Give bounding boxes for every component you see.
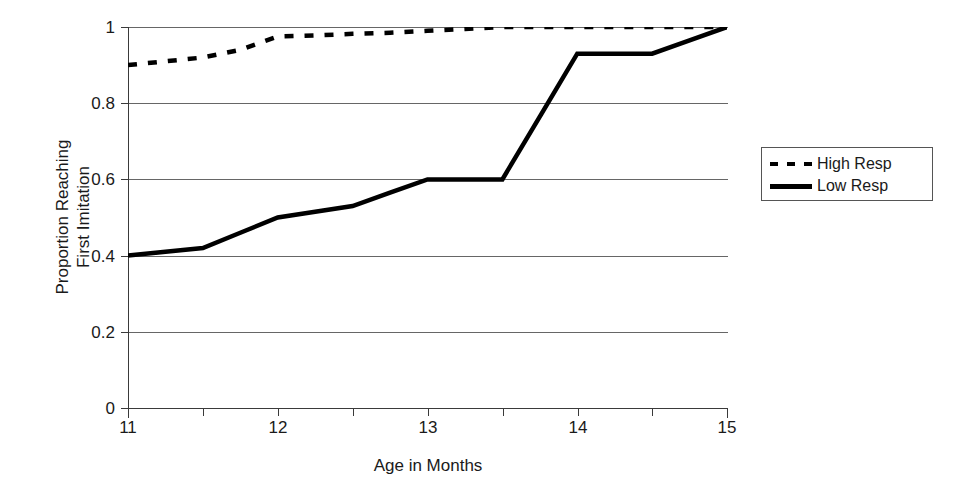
- x-tick-label-11: 11: [98, 419, 158, 436]
- series-line-low-resp: [128, 27, 727, 256]
- legend-label-high-resp: High Resp: [817, 156, 892, 172]
- y-tick-0.4: [121, 256, 128, 257]
- x-tick-12: [278, 409, 279, 416]
- legend: High Resp Low Resp: [761, 147, 933, 201]
- y-tick-0.8: [121, 103, 128, 104]
- x-axis-label: Age in Months: [128, 456, 728, 476]
- y-axis-label-line1: Proportion Reaching: [53, 140, 72, 295]
- y-tick-0: [121, 408, 128, 409]
- x-tick-11: [128, 409, 129, 418]
- x-tick-12.5: [353, 409, 354, 416]
- y-axis-label-line2: First Imitation: [73, 82, 94, 352]
- x-tick-14.5: [652, 409, 653, 416]
- legend-swatch-solid-icon: [770, 180, 812, 192]
- x-tick-label-14: 14: [548, 419, 608, 436]
- y-tick-0.6: [121, 179, 128, 180]
- x-tick-14: [578, 409, 579, 416]
- y-tick-label-0: 0: [60, 400, 115, 417]
- y-tick-0.2: [121, 332, 128, 333]
- x-tick-11.5: [203, 409, 204, 416]
- plot-series-layer: [128, 27, 727, 408]
- legend-label-low-resp: Low Resp: [817, 178, 888, 194]
- x-tick-label-12: 12: [248, 419, 308, 436]
- legend-item-high-resp[interactable]: High Resp: [770, 153, 932, 175]
- legend-swatch-dashed-icon: [770, 158, 812, 170]
- x-tick-13: [428, 409, 429, 416]
- y-tick-label-1: 1: [60, 19, 115, 36]
- x-tick-13.5: [503, 409, 504, 416]
- y-axis-label: Proportion Reaching First Imitation: [52, 82, 94, 352]
- series-line-high-resp: [128, 27, 727, 65]
- legend-item-low-resp[interactable]: Low Resp: [770, 175, 932, 197]
- x-tick-label-13: 13: [398, 419, 458, 436]
- y-tick-1.0: [121, 27, 128, 28]
- chart-figure: 1 0.8 0.6 0.4 0.2 0 11 12 13 14 15 Age i…: [0, 0, 956, 499]
- x-tick-15: [727, 409, 728, 418]
- x-tick-label-15: 15: [697, 419, 757, 436]
